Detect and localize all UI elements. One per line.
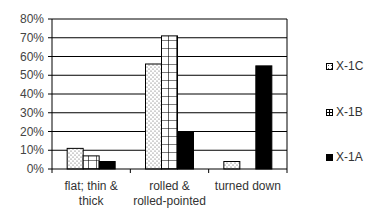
- x-category-label: thick: [79, 194, 105, 208]
- bar-x-1c: [146, 64, 162, 169]
- legend-swatch-icon: [326, 109, 333, 116]
- legend-label: X-1A: [336, 150, 363, 164]
- legend-label: X-1C: [336, 59, 363, 73]
- y-tick-label: 20%: [20, 125, 44, 139]
- y-axis: 0%10%20%30%40%50%60%70%80%: [20, 12, 52, 176]
- legend-item: X-1A: [326, 150, 363, 164]
- legend-item: X-1C: [326, 59, 363, 73]
- legend-label: X-1B: [336, 105, 363, 119]
- bar-x-1a: [178, 132, 194, 170]
- bar-x-1b: [83, 156, 99, 169]
- bar-x-1a: [256, 66, 272, 169]
- y-tick-label: 50%: [20, 68, 44, 82]
- bar-x-1c: [67, 148, 83, 169]
- x-category-label: flat; thin &: [64, 179, 117, 193]
- x-category-label: rolled &: [149, 179, 190, 193]
- x-category-label: rolled-pointed: [133, 194, 206, 208]
- bar-x-1a: [99, 162, 115, 170]
- x-axis: flat; thin &thickrolled &rolled-pointedt…: [52, 169, 287, 208]
- legend-swatch-icon: [326, 154, 333, 161]
- y-tick-label: 70%: [20, 31, 44, 45]
- legend-swatch-icon: [326, 63, 333, 70]
- y-tick-label: 80%: [20, 12, 44, 26]
- bar-chart: 0%10%20%30%40%50%60%70%80% flat; thin &t…: [0, 0, 373, 218]
- bar-x-1c: [224, 162, 240, 170]
- x-category-label: turned down: [215, 179, 281, 193]
- y-tick-label: 60%: [20, 50, 44, 64]
- legend-item: X-1B: [326, 105, 363, 119]
- y-tick-label: 40%: [20, 87, 44, 101]
- bars: [67, 36, 272, 169]
- y-tick-label: 30%: [20, 106, 44, 120]
- bar-x-1b: [162, 36, 178, 169]
- y-tick-label: 0%: [27, 162, 45, 176]
- y-tick-label: 10%: [20, 143, 44, 157]
